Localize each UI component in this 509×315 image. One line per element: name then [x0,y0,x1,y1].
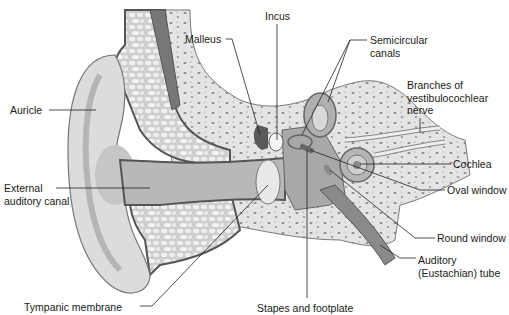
label-tympanic-membrane: Tympanic membrane [24,301,122,314]
label-cochlea: Cochlea [453,158,492,171]
tympanic-membrane-shape [256,160,280,204]
label-external-auditory-canal: External auditory canal [4,182,69,207]
label-stapes-footplate: Stapes and footplate [257,302,353,315]
label-semicircular-canals: Semicircular canals [370,34,428,59]
label-round-window: Round window [437,232,506,245]
label-oval-window: Oval window [447,184,507,197]
semicircular-canal-inner [312,105,328,131]
label-incus: Incus [265,10,290,23]
label-auricle: Auricle [10,104,42,117]
label-vestibulocochlear-nerve: Branches of vestibulocochlear nerve [407,79,488,117]
incus-shape [269,133,283,151]
ear-anatomy-diagram: Auricle External auditory canal Tympanic… [0,0,509,315]
label-malleus: Malleus [185,33,221,46]
label-auditory-tube: Auditory (Eustachian) tube [418,254,500,279]
